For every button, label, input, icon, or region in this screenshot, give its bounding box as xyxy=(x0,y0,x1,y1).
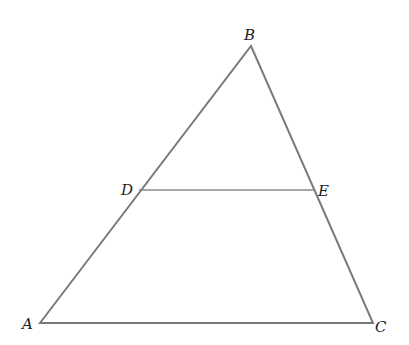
triangle-diagram: B D E A C xyxy=(0,0,409,345)
label-d: D xyxy=(120,181,133,199)
label-a: A xyxy=(20,315,33,333)
label-e: E xyxy=(317,182,329,200)
label-c: C xyxy=(375,318,387,336)
label-b: B xyxy=(243,26,255,44)
